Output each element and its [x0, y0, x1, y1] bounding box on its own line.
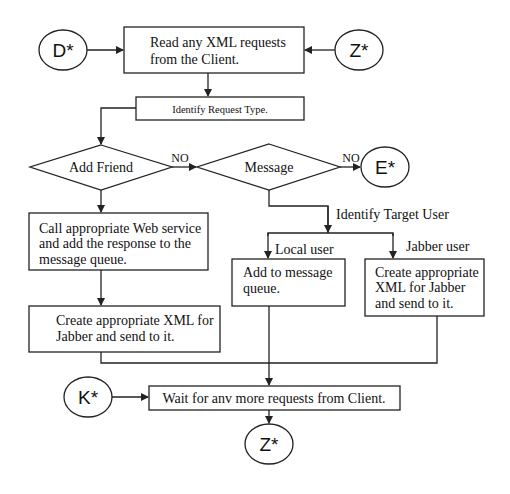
identify-request-type-label: Identify Request Type.: [172, 104, 268, 115]
edge-label-no-2: NO: [342, 151, 360, 165]
call-web-service-box: Call appropriate Web service and add the…: [29, 213, 208, 270]
call-web-service-line3: message queue.: [39, 252, 127, 267]
line-target-split: [268, 233, 393, 236]
connector-e: E*: [361, 147, 409, 187]
connector-d: D*: [39, 30, 87, 70]
connector-k-label: K*: [78, 387, 99, 408]
decision-message: Message: [197, 144, 340, 190]
create-xml-right-box: Create appropriate XML for Jabber and se…: [365, 259, 484, 316]
decision-add-friend: Add Friend: [30, 145, 172, 190]
connector-z-bottom-label: Z*: [260, 434, 280, 455]
add-to-queue-box: Add to message queue.: [232, 259, 345, 306]
read-requests-box: Read any XML requests from the Client.: [124, 27, 304, 73]
call-web-service-line2: and add the response to the: [39, 236, 191, 251]
connector-z-top: Z*: [335, 30, 383, 70]
connector-k: K*: [64, 377, 112, 417]
create-xml-left-line2: Jabber and send to it.: [56, 329, 175, 344]
wait-requests-box: Wait for anv more requests from Client.: [149, 386, 400, 410]
read-requests-line1: Read any XML requests: [150, 35, 286, 50]
connector-z-top-label: Z*: [350, 40, 370, 61]
connector-e-label: E*: [375, 157, 396, 178]
create-xml-right-line3: and send to it.: [375, 296, 454, 311]
edge-label-jabber-user: Jabber user: [406, 239, 470, 254]
create-xml-left-box: Create appropriate XML for Jabber and se…: [29, 306, 220, 352]
read-requests-line2: from the Client.: [150, 52, 239, 67]
edge-label-local-user: Local user: [275, 242, 334, 257]
flowchart: D* Read any XML requests from the Client…: [0, 0, 510, 494]
add-to-queue-line2: queue.: [243, 281, 280, 296]
identify-request-type-box: Identify Request Type.: [136, 97, 304, 120]
decision-message-label: Message: [245, 160, 294, 175]
create-xml-right-line2: XML for Jabber: [375, 280, 466, 295]
add-to-queue-line1: Add to message: [243, 265, 332, 280]
connector-d-label: D*: [52, 40, 74, 61]
create-xml-right-line1: Create appropriate: [375, 265, 479, 280]
line-message-yes: [269, 190, 328, 233]
arrow-identify-to-add-friend: [101, 108, 136, 144]
create-xml-left-line1: Create appropriate XML for: [56, 313, 214, 328]
edge-label-no-1: NO: [171, 151, 189, 165]
wait-requests-label: Wait for anv more requests from Client.: [162, 391, 385, 406]
edge-label-identify-target-user: Identify Target User: [336, 207, 449, 222]
call-web-service-line1: Call appropriate Web service: [39, 221, 201, 236]
connector-z-bottom: Z*: [245, 424, 293, 464]
decision-add-friend-label: Add Friend: [69, 160, 133, 175]
